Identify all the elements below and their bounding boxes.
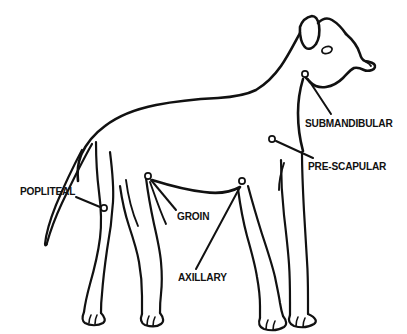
leader-line-submandibular (308, 79, 331, 114)
dog-belly-line (152, 180, 240, 193)
leader-line-axillary (196, 187, 240, 269)
dog-skull-top (318, 19, 346, 34)
leader-line-pre-scapular (276, 141, 313, 158)
dog-front-paw-near-toe-1 (266, 320, 268, 329)
dog-hind-paw-near-toe-2 (153, 317, 155, 326)
dog-hind-leg-near-back (146, 178, 162, 313)
lymph-node-marker-groin[interactable] (145, 173, 151, 179)
dog-front-leg-far-back (302, 152, 308, 314)
dog-hind-paw-near-toe-1 (147, 316, 149, 325)
dog-hind-paw-far (83, 312, 105, 325)
lymph-node-marker-submandibular[interactable] (302, 71, 308, 77)
label-popliteal: POPLITEAL (20, 186, 75, 197)
label-axillary: AXILLARY (178, 272, 227, 283)
dog-front-leg-near-front (248, 186, 283, 316)
dog-hind-paw-near (141, 313, 163, 326)
dog-front-paw-near-toe-2 (273, 321, 275, 330)
dog-ear-outline (300, 16, 320, 49)
dog-hind-paw-far-toe-2 (95, 315, 97, 324)
dog-hind-leg-far-front (84, 142, 101, 312)
label-groin: GROIN (177, 211, 209, 222)
dog-topline (81, 33, 300, 155)
label-pre-scapular: PRE-SCAPULAR (308, 161, 386, 172)
dog-hind-leg-far-back (101, 152, 113, 313)
dog-front-paw-far-toe-1 (296, 317, 298, 326)
lymph-node-marker-popliteal[interactable] (101, 205, 107, 211)
label-submandibular: SUBMANDIBULAR (305, 118, 393, 129)
dog-eye (321, 45, 333, 55)
dog-front-paw-far-toe-2 (303, 318, 305, 327)
lymph-node-diagram: POPLITEAL GROIN AXILLARY SUBMANDIBULAR P… (0, 0, 407, 334)
lymph-node-marker-pre-scapular[interactable] (269, 136, 275, 142)
dog-neck-front (298, 79, 303, 151)
leader-line-popliteal (76, 197, 100, 207)
dog-muzzle-outline (310, 34, 375, 87)
dog-tail-tip (45, 244, 47, 246)
dog-front-leg-far-front (281, 160, 290, 315)
dog-front-leg-near-back (238, 189, 260, 318)
lymph-node-marker-axillary[interactable] (239, 178, 245, 184)
dog-hind-paw-far-toe-1 (89, 315, 91, 323)
